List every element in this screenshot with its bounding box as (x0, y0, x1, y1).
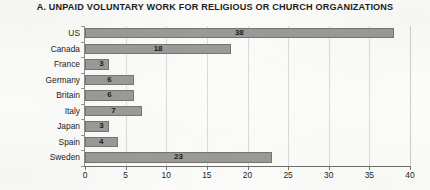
bar-row[interactable]: 6 (85, 88, 410, 104)
bar-row[interactable]: 7 (85, 104, 410, 120)
bar-value-label: 7 (85, 105, 142, 117)
category-label-sweden: Sweden (0, 150, 80, 166)
plot-area: 381836673423 (85, 26, 410, 166)
x-axis-tick-labels: 0510152025303540 (0, 170, 430, 184)
bar-row[interactable]: 3 (85, 119, 410, 135)
category-label-japan: Japan (0, 119, 80, 135)
bar-value-label: 18 (85, 43, 231, 55)
chart-title: A. UNPAID VOLUNTARY WORK FOR RELIGIOUS O… (0, 2, 430, 12)
category-label-italy: Italy (0, 104, 80, 120)
category-label-britain: Britain (0, 88, 80, 104)
bar-value-label: 3 (93, 120, 109, 132)
x-axis-tick-label: 15 (195, 170, 219, 180)
x-axis-tick-label: 0 (73, 170, 97, 180)
bar-row[interactable]: 3 (85, 57, 410, 73)
x-axis-tick-label: 25 (276, 170, 300, 180)
y-axis-category-labels: USCanadaFranceGermanyBritainItalyJapanSp… (0, 26, 80, 166)
category-label-germany: Germany (0, 73, 80, 89)
bar-row[interactable]: 6 (85, 73, 410, 89)
x-axis-tick-label: 40 (398, 170, 422, 180)
y-axis-line (84, 26, 85, 167)
x-axis-tick-label: 20 (236, 170, 260, 180)
x-axis-tick-label: 10 (154, 170, 178, 180)
bar-value-label: 4 (85, 136, 118, 148)
category-label-france: France (0, 57, 80, 73)
bar-value-label: 6 (85, 74, 134, 86)
category-label-us: US (0, 26, 80, 42)
x-axis-tick-label: 5 (114, 170, 138, 180)
bar-value-label: 23 (85, 151, 272, 163)
chart-figure: A. UNPAID VOLUNTARY WORK FOR RELIGIOUS O… (0, 0, 430, 190)
gridline (410, 26, 411, 166)
bar-series: 381836673423 (85, 26, 410, 166)
category-label-canada: Canada (0, 42, 80, 58)
bar-row[interactable]: 38 (85, 26, 410, 42)
bar-row[interactable]: 23 (85, 150, 410, 166)
x-axis-tick-label: 30 (317, 170, 341, 180)
category-label-spain: Spain (0, 135, 80, 151)
bar-row[interactable]: 18 (85, 42, 410, 58)
bar-value-label: 38 (85, 27, 394, 39)
x-axis-tick-label: 35 (357, 170, 381, 180)
bar-value-label: 3 (93, 58, 109, 70)
bar-row[interactable]: 4 (85, 135, 410, 151)
bar-value-label: 6 (85, 89, 134, 101)
